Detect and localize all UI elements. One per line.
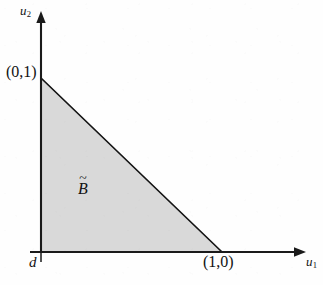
origin-label-d: d — [29, 255, 37, 270]
point-label-0-1: (0,1) — [6, 64, 37, 80]
figure-canvas: u2 u1 (0,1) (1,0) d ~B — [0, 0, 323, 285]
y-axis-label: u2 — [20, 4, 31, 19]
x-axis-label-subscript: 1 — [313, 260, 318, 270]
x-axis-label-base: u — [306, 254, 313, 269]
region-label-b-tilde: ~B — [78, 181, 88, 197]
y-axis-label-subscript: 2 — [27, 9, 32, 19]
x-axis-label: u1 — [306, 255, 317, 270]
diagram-svg — [0, 0, 323, 285]
point-label-1-0: (1,0) — [203, 254, 234, 270]
y-axis-arrowhead-icon — [36, 11, 45, 23]
region-label-glyph: ~B — [78, 181, 88, 197]
tilde-accent-icon: ~ — [79, 172, 86, 186]
x-axis-arrowhead-icon — [294, 247, 306, 256]
y-axis-label-base: u — [20, 3, 27, 18]
